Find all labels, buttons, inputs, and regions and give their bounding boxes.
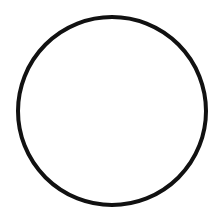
diagram-canvas (0, 0, 224, 214)
diagram-svg (0, 0, 224, 214)
circle-outline (18, 17, 206, 205)
